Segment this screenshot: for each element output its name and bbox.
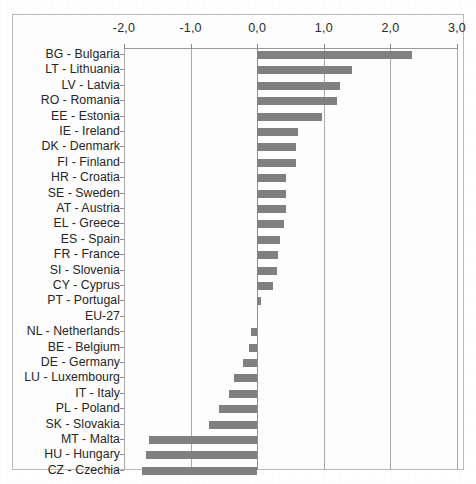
bar-row[interactable] (124, 171, 457, 186)
category-label: CZ - Czechia (0, 463, 120, 478)
gridline (457, 48, 458, 470)
chart-frame: -2,0-1,00,01,02,03,0 BG - BulgariaLT - L… (12, 14, 464, 470)
category-axis-labels: BG - BulgariaLT - LithuaniaLV - LatviaRO… (13, 48, 120, 470)
category-tick-mark (120, 146, 124, 147)
bar-row[interactable] (124, 248, 457, 263)
category-label: CY - Cyprus (0, 278, 120, 293)
category-label: FI - Finland (0, 155, 120, 170)
bar-row[interactable] (124, 94, 457, 109)
bar[interactable] (257, 267, 277, 275)
category-label: ES - Spain (0, 232, 120, 247)
bar-row[interactable] (124, 433, 457, 448)
bar-row[interactable] (124, 233, 457, 248)
category-tick-mark (120, 239, 124, 240)
bar-row[interactable] (124, 156, 457, 171)
x-axis-tick-label: 2,0 (381, 21, 399, 35)
category-tick-mark (120, 177, 124, 178)
bar[interactable] (257, 159, 296, 167)
bar[interactable] (257, 205, 286, 213)
category-label: SE - Sweden (0, 186, 120, 201)
x-axis-tick-label: 3,0 (448, 21, 466, 35)
bar[interactable] (257, 51, 412, 59)
category-tick-mark (120, 162, 124, 163)
category-tick-mark (120, 470, 124, 471)
bar[interactable] (251, 328, 258, 336)
bar-row[interactable] (124, 217, 457, 232)
bar-row[interactable] (124, 187, 457, 202)
bar[interactable] (219, 405, 258, 413)
category-tick-mark (120, 362, 124, 363)
category-label: AT - Austria (0, 201, 120, 216)
bar[interactable] (146, 451, 257, 459)
category-tick-mark (120, 69, 124, 70)
category-label: EL - Greece (0, 216, 120, 231)
bar[interactable] (257, 297, 260, 305)
bar-row[interactable] (124, 140, 457, 155)
bar-row[interactable] (124, 341, 457, 356)
category-tick-mark (120, 254, 124, 255)
category-label: DE - Germany (0, 355, 120, 370)
bar[interactable] (249, 344, 257, 352)
category-tick-mark (120, 454, 124, 455)
bar[interactable] (257, 282, 272, 290)
bar[interactable] (234, 374, 257, 382)
bar[interactable] (229, 390, 257, 398)
bar[interactable] (257, 251, 278, 259)
bar-row[interactable] (124, 279, 457, 294)
category-label: NL - Netherlands (0, 324, 120, 339)
bar[interactable] (142, 467, 257, 475)
bar-row[interactable] (124, 371, 457, 386)
bar[interactable] (257, 143, 296, 151)
bar-row[interactable] (124, 63, 457, 78)
bar-row[interactable] (124, 325, 457, 340)
bar[interactable] (209, 421, 257, 429)
bar-row[interactable] (124, 310, 457, 325)
bar[interactable] (243, 359, 258, 367)
bar[interactable] (257, 82, 340, 90)
bar[interactable] (257, 113, 322, 121)
bar[interactable] (257, 97, 337, 105)
bar[interactable] (257, 174, 286, 182)
x-axis-tick-label: 0,0 (248, 21, 266, 35)
bar-row[interactable] (124, 125, 457, 140)
bar[interactable] (257, 190, 286, 198)
category-label: IE - Ireland (0, 124, 120, 139)
category-tick-mark (120, 223, 124, 224)
bar[interactable] (257, 236, 280, 244)
category-label: HR - Croatia (0, 170, 120, 185)
category-tick-mark (120, 377, 124, 378)
category-tick-mark (120, 85, 124, 86)
bar[interactable] (149, 436, 257, 444)
bar-row[interactable] (124, 402, 457, 417)
category-label: BG - Bulgaria (0, 47, 120, 62)
category-label: HU - Hungary (0, 447, 120, 462)
category-tick-mark (120, 116, 124, 117)
bar-row[interactable] (124, 418, 457, 433)
category-tick-mark (120, 424, 124, 425)
bar-row[interactable] (124, 464, 457, 479)
category-label: PT - Portugal (0, 293, 120, 308)
bar-row[interactable] (124, 387, 457, 402)
category-tick-mark (120, 347, 124, 348)
category-tick-mark (120, 285, 124, 286)
category-tick-mark (120, 270, 124, 271)
x-axis-tick-label-row: -2,0-1,00,01,02,03,0 (13, 15, 465, 45)
bar[interactable] (257, 128, 298, 136)
bar-row[interactable] (124, 202, 457, 217)
bar-row[interactable] (124, 264, 457, 279)
category-tick-mark (120, 331, 124, 332)
x-axis-tick-mark (457, 44, 458, 49)
bar-row[interactable] (124, 448, 457, 463)
bar[interactable] (257, 220, 284, 228)
bar[interactable] (257, 66, 352, 74)
category-label: DK - Denmark (0, 139, 120, 154)
bar-row[interactable] (124, 48, 457, 63)
category-label: BE - Belgium (0, 340, 120, 355)
bar-row[interactable] (124, 356, 457, 371)
category-tick-mark (120, 100, 124, 101)
category-tick-mark (120, 408, 124, 409)
bar-row[interactable] (124, 79, 457, 94)
bar-row[interactable] (124, 294, 457, 309)
bar-row[interactable] (124, 110, 457, 125)
category-label: RO - Romania (0, 93, 120, 108)
